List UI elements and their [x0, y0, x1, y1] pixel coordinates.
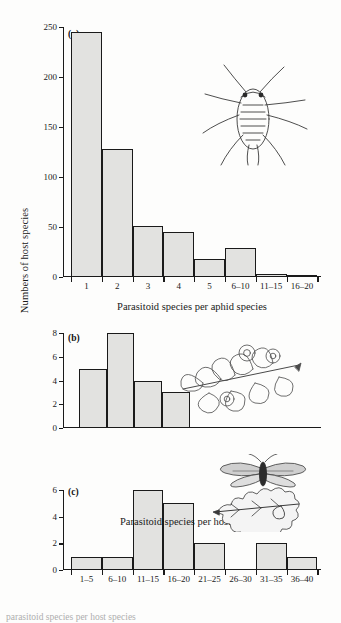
- x-tick-label: 11–15: [137, 574, 159, 584]
- bar: [133, 226, 164, 277]
- bar: [256, 543, 287, 570]
- x-tick-label: 1: [84, 281, 89, 291]
- x-tick: [71, 277, 72, 282]
- x-tick-label: 6–10: [231, 281, 249, 291]
- y-tick-label: 50: [48, 222, 57, 232]
- x-tick: [163, 570, 164, 575]
- y-tick-label: 0: [53, 565, 58, 575]
- y-tick: [59, 490, 64, 491]
- bar: [163, 503, 194, 570]
- bar: [133, 490, 164, 570]
- bar: [71, 32, 102, 277]
- x-tick-label: 5: [207, 281, 212, 291]
- x-tick-label: 16–20: [168, 574, 191, 584]
- bar: [194, 259, 225, 277]
- y-tick-label: 250: [44, 22, 58, 32]
- x-tick: [317, 570, 318, 575]
- x-tick: [133, 277, 134, 282]
- x-tick: [71, 570, 72, 575]
- y-tick-label: 0: [53, 423, 58, 433]
- bar: [162, 392, 190, 428]
- bar: [163, 232, 194, 277]
- x-tick: [287, 570, 288, 575]
- x-tick-label: 4: [177, 281, 182, 291]
- panel-c-chart: (c) 02461–56–1011–1516–2021–2526–3031–35…: [63, 490, 321, 570]
- y-tick-label: 100: [44, 172, 58, 182]
- x-tick-label: 21–25: [198, 574, 221, 584]
- x-tick-label: 3: [146, 281, 151, 291]
- x-tick: [133, 570, 134, 575]
- y-tick: [59, 127, 64, 128]
- x-tick-label: 36–40: [291, 574, 314, 584]
- panel-c-plot-area: 02461–56–1011–1516–2021–2526–3031–3536–4…: [63, 490, 321, 570]
- bar: [194, 543, 225, 570]
- y-tick-label: 200: [44, 72, 58, 82]
- y-tick-label: 150: [44, 122, 58, 132]
- y-tick-label: 6: [53, 352, 58, 362]
- cropped-figure-caption: parasitoid species per host species: [6, 612, 335, 623]
- y-tick-label: 6: [53, 485, 58, 495]
- x-tick: [225, 570, 226, 575]
- bar: [287, 557, 318, 570]
- panel-c-y-axis: [63, 490, 64, 570]
- bar: [225, 248, 256, 277]
- y-tick-label: 0: [53, 272, 58, 282]
- bar: [134, 381, 162, 429]
- x-tick: [194, 277, 195, 282]
- x-tick: [102, 570, 103, 575]
- figure-panel-group: Numbers of host species (a) 050100150200…: [0, 0, 341, 623]
- shared-y-axis-label: Numbers of host species: [19, 181, 30, 341]
- x-tick: [317, 277, 318, 282]
- y-tick: [59, 77, 64, 78]
- panel-a-y-axis: [63, 27, 64, 277]
- y-tick: [59, 227, 64, 228]
- y-tick: [59, 381, 64, 382]
- x-tick-label: 2: [115, 281, 120, 291]
- bar: [102, 149, 133, 277]
- x-tick: [256, 277, 257, 282]
- y-tick: [59, 357, 64, 358]
- bar: [107, 333, 135, 428]
- y-tick: [59, 543, 64, 544]
- panel-b-chart: (b) 02468: [63, 333, 321, 428]
- bar: [71, 557, 102, 570]
- y-tick-label: 2: [53, 538, 58, 548]
- x-tick-label: 11–15: [260, 281, 282, 291]
- y-tick: [59, 428, 64, 429]
- x-tick: [194, 570, 195, 575]
- x-tick-label: 6–10: [108, 574, 126, 584]
- x-tick: [102, 277, 103, 282]
- bar: [102, 557, 133, 570]
- x-tick: [256, 570, 257, 575]
- bar: [79, 369, 107, 428]
- panel-b-plot-area: 02468: [63, 333, 321, 428]
- bar: [256, 274, 287, 277]
- y-tick-label: 4: [53, 512, 58, 522]
- y-tick: [59, 277, 64, 278]
- bar: [287, 275, 318, 277]
- panel-a-x-axis-title: Parasitoid species per aphid species: [63, 301, 321, 312]
- y-tick-label: 8: [53, 328, 58, 338]
- x-tick: [163, 277, 164, 282]
- y-tick-label: 2: [53, 399, 58, 409]
- y-tick: [59, 570, 64, 571]
- x-tick-label: 26–30: [229, 574, 252, 584]
- panel-a-chart: (a) 050100150200250123456–1011–1516–20 P…: [63, 27, 321, 277]
- panel-c-x-axis-title: Parasitoid species per host species: [63, 516, 321, 527]
- x-tick-label: 16–20: [291, 281, 314, 291]
- panel-b-y-axis: [63, 333, 64, 428]
- x-tick: [225, 277, 226, 282]
- y-tick-label: 4: [53, 376, 58, 386]
- panel-a-plot-area: 050100150200250123456–1011–1516–20: [63, 27, 321, 277]
- y-tick: [59, 27, 64, 28]
- x-tick: [287, 277, 288, 282]
- y-tick: [59, 333, 64, 334]
- y-tick: [59, 177, 64, 178]
- x-tick-label: 31–35: [260, 574, 283, 584]
- y-tick: [59, 404, 64, 405]
- x-tick-label: 1–5: [80, 574, 94, 584]
